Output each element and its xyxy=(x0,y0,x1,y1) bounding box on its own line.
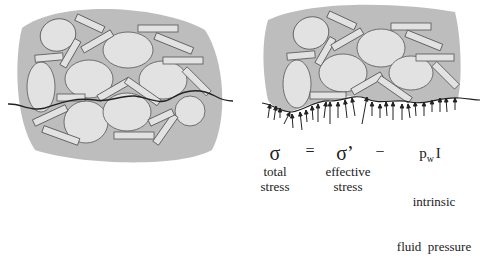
fluid-pressure-label: intrinsic fluid pressure xyxy=(385,164,483,258)
left-soil-body xyxy=(8,9,233,162)
right-soil-body xyxy=(262,5,480,130)
effective-stress-symbol: σ’ xyxy=(325,143,365,163)
total-label-line2: stress xyxy=(250,179,300,194)
fluid-pressure-symbol: pwI xyxy=(400,146,460,164)
identity-tensor: I xyxy=(436,145,441,161)
pressure-label-line1: intrinsic xyxy=(385,194,483,209)
effective-label-line2: stress xyxy=(318,179,378,194)
pressure-subscript: w xyxy=(427,153,434,164)
total-label-line1: total xyxy=(250,164,300,179)
total-stress-label: total stress xyxy=(250,164,300,194)
equals-sign: = xyxy=(295,143,325,159)
total-stress-symbol: σ xyxy=(260,143,290,163)
effective-label-line1: effective xyxy=(318,164,378,179)
minus-sign: − xyxy=(370,144,390,160)
pressure-label-line2: fluid pressure xyxy=(385,239,483,254)
effective-stress-label: effective stress xyxy=(318,164,378,194)
pressure-p: p xyxy=(419,145,427,161)
